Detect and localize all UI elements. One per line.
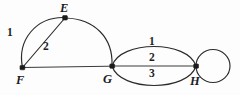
edge-f-g-straight <box>23 66 112 67</box>
vertex-dot-f <box>20 65 25 69</box>
vertex-dot-e <box>63 16 68 20</box>
edge-label-g-h-straight: 2 <box>149 52 155 64</box>
edge-label-f-e-straight: 2 <box>43 41 49 53</box>
vertex-label-h: H <box>190 75 200 88</box>
vertex-label-g: G <box>103 73 112 86</box>
edge-e-g-arc <box>66 18 113 65</box>
edge-label-g-h-above: 1 <box>149 36 155 48</box>
vertex-label-f: F <box>16 74 24 87</box>
vertex-dot-g <box>110 64 115 68</box>
vertex-label-e: E <box>60 2 68 15</box>
edge-h-self-loop <box>196 50 230 83</box>
multigraph-figure: E F G H 1 2 1 2 3 <box>0 0 240 95</box>
graph-canvas <box>0 0 240 95</box>
edge-label-f-e-arc: 1 <box>7 27 13 39</box>
edge-label-g-h-below: 3 <box>149 68 155 80</box>
vertex-dot-h <box>194 64 199 68</box>
